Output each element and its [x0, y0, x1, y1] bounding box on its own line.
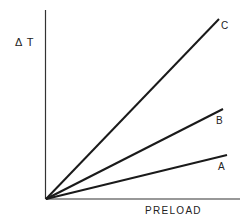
line-c	[46, 19, 219, 199]
y-axis-label: Δ T	[15, 36, 35, 48]
line-a	[46, 155, 227, 199]
line-b	[46, 109, 223, 199]
series-label-c: C	[221, 20, 229, 31]
chart: Δ T PRELOAD C B A	[0, 0, 250, 220]
series-label-b: B	[216, 115, 224, 126]
plot-area	[0, 0, 250, 220]
series-label-a: A	[218, 161, 226, 172]
x-axis-label: PRELOAD	[145, 205, 202, 216]
